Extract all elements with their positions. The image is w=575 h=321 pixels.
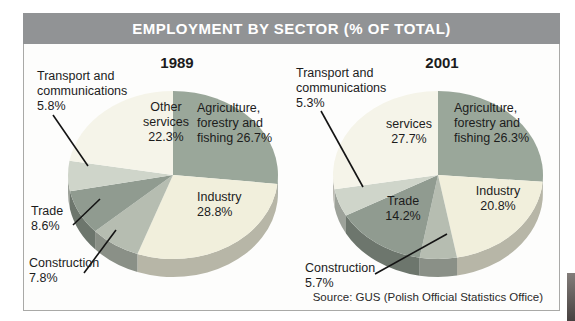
year-label-1989: 1989: [137, 54, 217, 71]
label-transport-2001: Transport and communications 5.3%: [296, 66, 386, 111]
chart-title-bar: EMPLOYMENT BY SECTOR (% OF TOTAL): [23, 13, 560, 44]
source-note: Source: GUS (Polish Official Statistics …: [313, 291, 543, 303]
year-label-2001: 2001: [402, 54, 482, 71]
label-agriculture-2001: Agriculture, forestry and fishing 26.3%: [454, 101, 529, 146]
chart-panel: 1989 2001 Transport and communications 5…: [23, 44, 560, 311]
label-construction-2001: Construction 5.7%: [305, 261, 375, 291]
label-construction-1989: Construction 7.8%: [29, 256, 99, 286]
label-trade-1989: Trade 8.6%: [31, 204, 63, 234]
label-industry-2001: Industry 20.8%: [458, 184, 538, 214]
figure-page: EMPLOYMENT BY SECTOR (% OF TOTAL) 1989 2…: [0, 0, 575, 321]
label-trade-2001: Trade 14.2%: [368, 194, 438, 224]
label-services-2001: services 27.7%: [364, 117, 454, 147]
label-industry-1989: Industry 28.8%: [197, 190, 241, 220]
label-agriculture-1989: Agriculture, forestry and fishing 26.7%: [197, 101, 272, 146]
page-corner-strip: [567, 273, 575, 321]
chart-title: EMPLOYMENT BY SECTOR (% OF TOTAL): [132, 20, 451, 37]
